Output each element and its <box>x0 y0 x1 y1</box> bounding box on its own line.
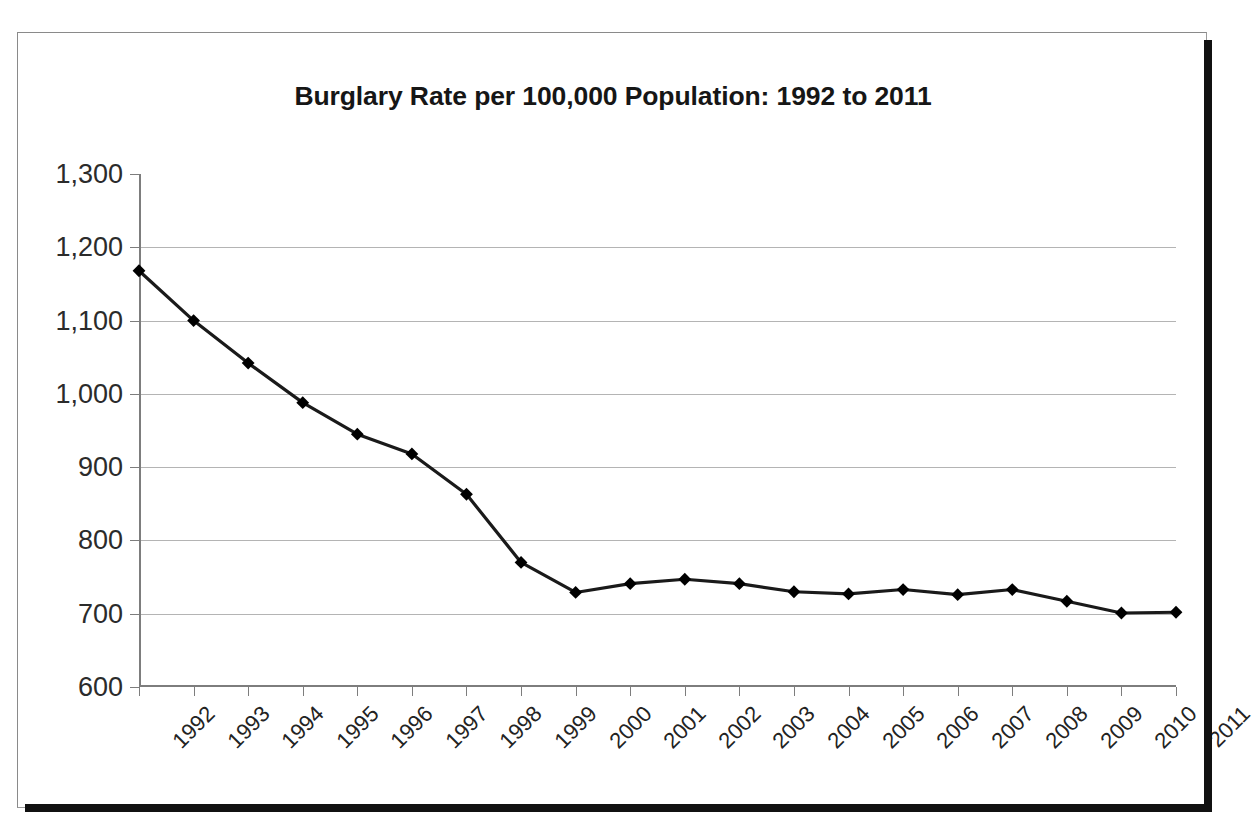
x-axis-tick-label: 2010 <box>1150 701 1203 754</box>
data-point-marker <box>788 585 801 598</box>
x-axis-tick-label: 2009 <box>1095 701 1148 754</box>
data-point-marker <box>1170 606 1183 619</box>
x-axis-tick <box>466 687 467 696</box>
y-axis-tick <box>130 394 139 395</box>
x-axis-tick-label: 1996 <box>386 701 439 754</box>
y-axis-tick-label: 600 <box>78 672 123 703</box>
x-axis-tick <box>958 687 959 696</box>
x-axis-tick <box>194 687 195 696</box>
data-point-marker <box>1060 595 1073 608</box>
frame-shadow-bottom <box>25 804 1212 812</box>
data-point-marker <box>1115 607 1128 620</box>
x-axis-tick-label: 2006 <box>931 701 984 754</box>
x-axis-tick-label: 1994 <box>276 701 329 754</box>
y-axis-tick <box>130 247 139 248</box>
data-point-marker <box>351 428 364 441</box>
x-axis-tick <box>576 687 577 696</box>
y-axis-tick-label: 1,200 <box>55 232 123 263</box>
x-axis-tick-label: 2003 <box>768 701 821 754</box>
plot-area: 1,3001,2001,1001,000900800700600 1992199… <box>139 174 1176 687</box>
x-axis-tick-label: 2000 <box>604 701 657 754</box>
y-axis-tick-label: 1,300 <box>55 159 123 190</box>
x-axis-tick <box>630 687 631 696</box>
x-axis-tick <box>1176 687 1177 696</box>
x-axis-tick <box>521 687 522 696</box>
data-point-marker <box>733 577 746 590</box>
data-point-marker <box>842 588 855 601</box>
y-axis-tick-label: 900 <box>78 452 123 483</box>
data-point-marker <box>624 577 637 590</box>
x-axis-tick-label: 1999 <box>549 701 602 754</box>
x-axis-tick-label: 1998 <box>495 701 548 754</box>
chart-title: Burglary Rate per 100,000 Population: 19… <box>18 81 1208 112</box>
x-axis-tick <box>139 687 140 696</box>
y-axis-tick-label: 1,100 <box>55 305 123 336</box>
data-point-marker <box>678 573 691 586</box>
x-axis-tick <box>849 687 850 696</box>
x-axis-tick <box>1067 687 1068 696</box>
y-axis-tick-label: 1,000 <box>55 378 123 409</box>
data-point-marker <box>951 588 964 601</box>
y-axis-tick <box>130 321 139 322</box>
series-line <box>139 271 1176 613</box>
y-axis-tick <box>130 467 139 468</box>
x-axis-tick-label: 2004 <box>822 701 875 754</box>
y-axis-tick <box>130 540 139 541</box>
data-point-marker <box>897 583 910 596</box>
data-point-marker <box>569 586 582 599</box>
y-axis-tick <box>130 174 139 175</box>
y-axis-tick <box>130 614 139 615</box>
x-axis-tick-label: 2007 <box>986 701 1039 754</box>
x-axis-tick-label: 1992 <box>167 701 220 754</box>
chart-frame: Burglary Rate per 100,000 Population: 19… <box>17 32 1207 808</box>
y-axis-tick-label: 700 <box>78 598 123 629</box>
x-axis-tick <box>412 687 413 696</box>
x-axis-tick-label: 1997 <box>440 701 493 754</box>
x-axis-tick-label: 2002 <box>713 701 766 754</box>
x-axis-tick-label: 2005 <box>877 701 930 754</box>
x-axis-tick <box>794 687 795 696</box>
x-axis-tick <box>248 687 249 696</box>
x-axis-tick <box>685 687 686 696</box>
x-axis-tick <box>1012 687 1013 696</box>
line-series <box>139 174 1176 687</box>
x-axis-tick <box>739 687 740 696</box>
x-axis-tick-label: 1993 <box>222 701 275 754</box>
x-axis-tick <box>303 687 304 696</box>
y-axis-tick <box>130 687 139 688</box>
x-axis-tick <box>903 687 904 696</box>
x-axis-tick <box>357 687 358 696</box>
data-point-marker <box>1006 583 1019 596</box>
y-axis-tick-label: 800 <box>78 525 123 556</box>
x-axis-tick-label: 1995 <box>331 701 384 754</box>
frame-shadow-right <box>1204 40 1212 812</box>
x-axis-tick <box>1121 687 1122 696</box>
x-axis-tick-label: 2001 <box>659 701 712 754</box>
x-axis-tick-label: 2008 <box>1041 701 1094 754</box>
